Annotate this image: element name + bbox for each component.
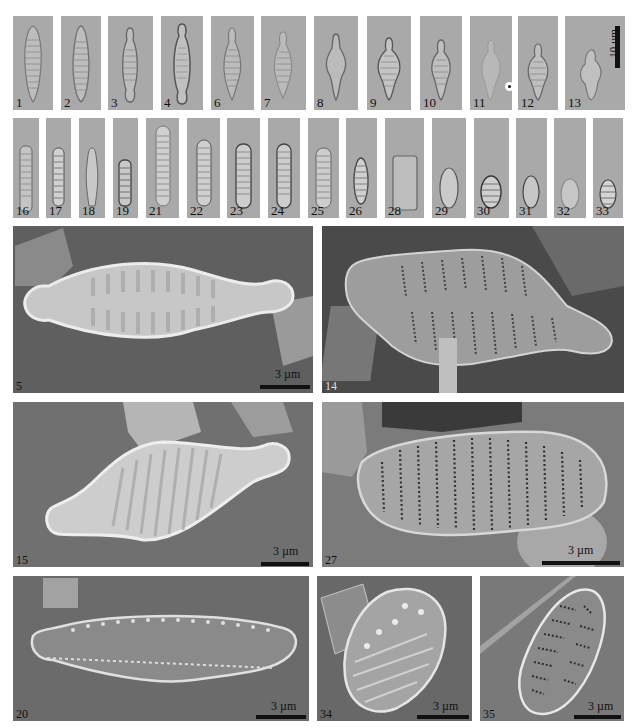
panel-label: 31 xyxy=(519,204,532,217)
panel-label: 7 xyxy=(264,96,271,109)
panel-label: 8 xyxy=(317,96,324,109)
panel-label: 15 xyxy=(16,554,28,566)
lm-panel-12: 12 xyxy=(518,16,558,110)
lm-panel-13: 10 µm 13 xyxy=(565,16,625,110)
panel-label: 25 xyxy=(311,204,324,217)
lm-panel-1: 1 xyxy=(13,16,53,110)
panel-label: 21 xyxy=(149,204,162,217)
scale-bar-label: 3 µm xyxy=(588,700,613,712)
panel-label: 1 xyxy=(16,96,23,109)
scale-bar xyxy=(256,715,306,719)
lm-panel-24: 24 xyxy=(268,118,300,218)
scale-bar-label: 3 µm xyxy=(273,545,298,557)
sem-panel-15: 3 µm 15 xyxy=(13,402,313,567)
panel-label: 27 xyxy=(325,554,337,566)
panel-label: 17 xyxy=(49,204,62,217)
panel-label: 5 xyxy=(16,380,22,392)
lm-panel-31: 31 xyxy=(516,118,547,218)
diatom-valve-sem-image xyxy=(13,226,313,393)
lm-panel-8: 8 xyxy=(314,16,358,110)
lm-panel-7: 7 xyxy=(261,16,306,110)
scale-bar xyxy=(261,562,309,566)
lm-panel-22: 22 xyxy=(187,118,220,218)
panel-label: 19 xyxy=(116,204,129,217)
lm-panel-6: 6 xyxy=(211,16,254,110)
panel-label: 4 xyxy=(164,96,171,109)
panel-label: 26 xyxy=(349,204,362,217)
scale-bar-label: 3 µm xyxy=(271,700,296,712)
panel-label: 18 xyxy=(82,204,95,217)
panel-label: 34 xyxy=(320,708,332,720)
scale-bar-label: 10 µm xyxy=(608,29,619,58)
panel-label: 33 xyxy=(596,204,609,217)
scale-bar-label: 3 µm xyxy=(433,700,458,712)
lm-panel-16: 16 xyxy=(13,118,39,218)
panel-label: 9 xyxy=(370,96,377,109)
lm-panel-23: 23 xyxy=(227,118,260,218)
sem-panel-20: 3 µm 20 xyxy=(13,576,309,721)
lm-panel-33: 33 xyxy=(593,118,623,218)
sem-panel-35: 3 µm 35 xyxy=(480,576,624,721)
scale-bar xyxy=(260,385,310,389)
panel-label: 28 xyxy=(388,204,401,217)
lm-panel-3: 3 xyxy=(108,16,153,110)
diatom-valve-sem-image xyxy=(322,226,624,393)
diatom-valve-sem-image xyxy=(13,402,313,567)
panel-label: 20 xyxy=(16,708,28,720)
panel-label: 24 xyxy=(271,204,284,217)
sem-panel-27: 3 µm 27 xyxy=(322,402,624,567)
lm-panel-32: 32 xyxy=(554,118,586,218)
sem-panel-34: 3 µm 34 xyxy=(317,576,472,721)
panel-label: 14 xyxy=(325,380,337,392)
scale-bar xyxy=(542,561,620,565)
panel-label: 10 xyxy=(423,96,436,109)
lm-panel-2: 2 xyxy=(61,16,101,110)
scale-bar xyxy=(574,715,621,719)
panel-label: 2 xyxy=(64,96,71,109)
panel-label: 30 xyxy=(477,204,490,217)
panel-label: 12 xyxy=(521,96,534,109)
panel-label: 32 xyxy=(557,204,570,217)
lm-panel-21: 21 xyxy=(146,118,179,218)
lm-panel-26: 26 xyxy=(346,118,377,218)
marker-dot xyxy=(505,82,514,91)
lm-panel-17: 17 xyxy=(46,118,71,218)
sem-panel-5: 3 µm 5 xyxy=(13,226,313,393)
lm-panel-18: 18 xyxy=(79,118,105,218)
sem-panel-14: 14 xyxy=(322,226,624,393)
panel-label: 29 xyxy=(435,204,448,217)
lm-panel-30: 30 xyxy=(474,118,509,218)
lm-panel-28: 28 xyxy=(385,118,424,218)
lm-panel-9: 9 xyxy=(367,16,411,110)
panel-label: 13 xyxy=(568,96,581,109)
panel-label: 11 xyxy=(473,96,486,109)
panel-label: 6 xyxy=(214,96,221,109)
lm-panel-4: 4 xyxy=(161,16,203,110)
lm-panel-19: 19 xyxy=(113,118,138,218)
scale-bar-label: 3 µm xyxy=(568,544,593,556)
lm-panel-29: 29 xyxy=(432,118,466,218)
scale-bar xyxy=(417,715,469,719)
lm-panel-25: 25 xyxy=(308,118,339,218)
panel-label: 35 xyxy=(483,708,495,720)
panel-label: 23 xyxy=(230,204,243,217)
panel-label: 16 xyxy=(16,204,29,217)
lm-panel-10: 10 xyxy=(420,16,462,110)
diatom-valve-sem-image xyxy=(13,576,309,721)
scale-bar-label: 3 µm xyxy=(275,368,300,380)
lm-panel-11: 11 xyxy=(470,16,512,110)
panel-label: 3 xyxy=(111,96,118,109)
panel-label: 22 xyxy=(190,204,203,217)
